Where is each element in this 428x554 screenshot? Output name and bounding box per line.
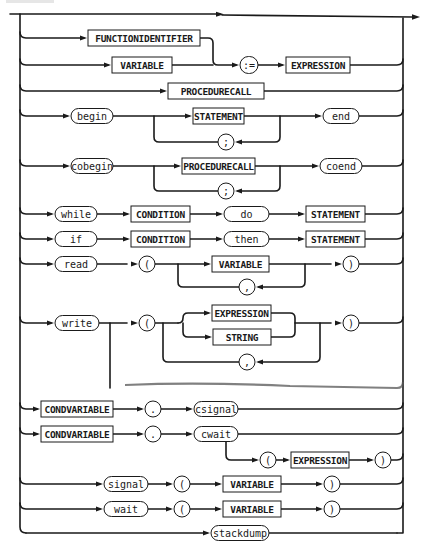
nt-condition-while: CONDITION	[131, 206, 190, 222]
nonterminal-label: STATEMENT	[311, 234, 360, 245]
terminal-label: )	[348, 318, 354, 329]
t-rparen-wait: )	[324, 501, 340, 517]
terminal-label: )	[329, 504, 335, 515]
terminal-label: coend	[326, 161, 356, 172]
nonterminal-label: STATEMENT	[194, 111, 243, 122]
terminal-label: ,	[244, 282, 250, 293]
t-cobegin: cobegin	[71, 159, 113, 174]
t-lparen-wait: (	[174, 501, 190, 517]
t-lparen-write: (	[139, 315, 155, 331]
nonterminal-label: VARIABLE	[219, 259, 263, 270]
nt-variable-signal: VARIABLE	[223, 476, 281, 492]
terminal-label: signal	[108, 479, 144, 490]
nonterminal-label: VARIABLE	[120, 60, 164, 71]
terminal-label: ,	[244, 357, 250, 368]
nonterminal-label: FUNCTIONIDENTIFIER	[95, 33, 193, 44]
terminal-label: write	[62, 318, 92, 329]
nonterminal-label: EXPRESSION	[293, 455, 348, 466]
nt-condvariable-cwait: CONDVARIABLE	[41, 426, 113, 442]
nt-expression-write: EXPRESSION	[212, 305, 271, 321]
terminal-label: )	[348, 259, 354, 270]
t-rparen-signal: )	[324, 476, 340, 492]
nt-functionidentifier: FUNCTIONIDENTIFIER	[88, 30, 200, 46]
terminal-label: cwait	[201, 429, 231, 440]
terminal-label: stackdump	[213, 528, 267, 539]
nt-expression-cwait: EXPRESSION	[291, 452, 349, 468]
t-stackdump: stackdump	[211, 526, 269, 541]
t-semicolon-cobegin: ;	[218, 183, 234, 199]
nonterminal-label: CONDITION	[136, 209, 185, 220]
terminal-label: while	[61, 209, 91, 220]
t-semicolon-begin: ;	[218, 134, 234, 150]
nonterminal-label: CONDVARIABLE	[44, 404, 110, 415]
terminal-label: .	[150, 404, 156, 415]
nt-string-write: STRING	[213, 329, 271, 345]
nt-procedurecall: PROCEDURECALL	[168, 83, 264, 99]
diagram-nodes: FUNCTIONIDENTIFIERVARIABLEEXPRESSIONPROC…	[41, 30, 391, 541]
t-signal: signal	[104, 477, 148, 492]
nt-variable-wait: VARIABLE	[223, 501, 281, 517]
nt-statement-if: STATEMENT	[306, 231, 365, 247]
t-if: if	[55, 232, 97, 247]
nonterminal-label: EXPRESSION	[214, 308, 269, 319]
t-dot-csignal: .	[145, 401, 161, 417]
nonterminal-label: VARIABLE	[230, 504, 274, 515]
terminal-label: (	[144, 259, 150, 270]
terminal-label: .	[150, 429, 156, 440]
nonterminal-label: CONDVARIABLE	[44, 429, 110, 440]
t-rparen-cwait: )	[375, 452, 391, 468]
nonterminal-label: PROCEDURECALL	[181, 86, 252, 97]
nonterminal-label: EXPRESSION	[291, 60, 346, 71]
terminal-label: then	[234, 234, 258, 245]
terminal-label: do	[240, 209, 252, 220]
t-while: while	[55, 207, 97, 222]
t-lparen-read: (	[139, 256, 155, 272]
t-coend: coend	[320, 159, 362, 174]
terminal-label: wait	[114, 504, 138, 515]
t-end: end	[323, 109, 359, 124]
terminal-label: read	[64, 259, 88, 270]
terminal-label: cobegin	[71, 161, 113, 172]
t-read: read	[55, 257, 97, 272]
nt-statement-begin: STATEMENT	[193, 108, 244, 124]
t-rparen-write: )	[343, 315, 359, 331]
t-lparen-signal: (	[174, 476, 190, 492]
t-do: do	[224, 207, 269, 222]
nonterminal-label: PROCEDURECALL	[183, 161, 254, 172]
terminal-label: csignal	[195, 404, 237, 415]
t-comma-read: ,	[239, 279, 255, 295]
terminal-label: (	[144, 318, 150, 329]
nt-expression-assign: EXPRESSION	[286, 57, 350, 73]
terminal-label: ;	[223, 137, 229, 148]
terminal-label: (	[265, 455, 271, 466]
t-write: write	[55, 316, 99, 331]
nonterminal-label: CONDITION	[136, 234, 185, 245]
terminal-label: end	[332, 111, 350, 122]
terminal-label: if	[70, 234, 82, 245]
nt-condition-if: CONDITION	[131, 231, 190, 247]
nt-variable-read: VARIABLE	[212, 256, 269, 272]
nt-statement-while: STATEMENT	[306, 206, 365, 222]
terminal-label: )	[329, 479, 335, 490]
scan-smudge	[6, 0, 54, 3]
t-lparen-cwait: (	[260, 452, 276, 468]
t-comma-write: ,	[239, 354, 255, 370]
t-assign: :=	[240, 57, 258, 74]
nt-condvariable-csignal: CONDVARIABLE	[41, 401, 113, 417]
t-dot-cwait: .	[145, 426, 161, 442]
terminal-label: (	[179, 479, 185, 490]
terminal-label: ;	[223, 186, 229, 197]
terminal-label: begin	[77, 111, 107, 122]
t-rparen-read: )	[343, 256, 359, 272]
nt-variable-assign: VARIABLE	[112, 57, 172, 73]
terminal-label: :=	[243, 60, 255, 71]
nt-procedurecall-cobegin: PROCEDURECALL	[182, 158, 255, 174]
nonterminal-label: VARIABLE	[230, 479, 274, 490]
nonterminal-label: STRING	[226, 332, 259, 343]
syntax-diagram: FUNCTIONIDENTIFIERVARIABLEEXPRESSIONPROC…	[0, 0, 428, 554]
nonterminal-label: STATEMENT	[311, 209, 360, 220]
t-begin: begin	[71, 109, 113, 124]
t-cwait: cwait	[194, 427, 238, 442]
terminal-label: (	[179, 504, 185, 515]
t-csignal: csignal	[194, 402, 238, 417]
